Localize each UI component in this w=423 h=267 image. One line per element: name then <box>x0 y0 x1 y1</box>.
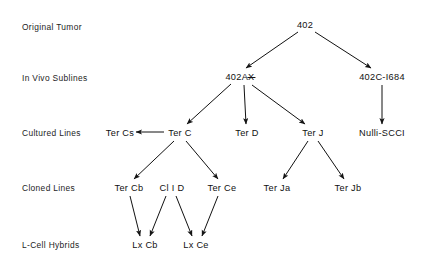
node-n402: 402 <box>297 20 313 30</box>
edge-n402-to-n402ax <box>246 32 298 68</box>
node-label: Ter J <box>302 128 323 138</box>
node-tercs: Ter Cs <box>106 128 134 138</box>
node-terj: Ter J <box>302 128 323 138</box>
node-terce: Ter Ce <box>208 183 237 193</box>
row-label-original-tumor: Original Tumor <box>22 22 82 32</box>
node-label: Lx Cb <box>132 240 158 250</box>
node-label: Ter Cb <box>115 183 144 193</box>
node-label: 402 <box>297 20 313 30</box>
node-n402ax: 402AX <box>225 72 254 82</box>
edge-terj-to-terja <box>283 141 308 179</box>
edge-clid-to-lxcb <box>150 196 166 236</box>
node-terc: Ter C <box>168 128 191 138</box>
node-label: Nulli-SCCI <box>359 128 405 138</box>
node-label: 402C-I684 <box>359 72 405 82</box>
node-terja: Ter Ja <box>264 183 291 193</box>
edge-clid-to-lxce <box>176 196 192 236</box>
node-lxce: Lx Ce <box>183 240 209 250</box>
node-tercb: Ter Cb <box>115 183 144 193</box>
edge-tercb-to-lxcb <box>130 196 140 236</box>
edge-terc-to-tercb <box>134 141 174 179</box>
edge-n402ax-to-terj <box>252 85 305 124</box>
node-overbar-segment: X <box>248 72 254 82</box>
node-label: Cl I D <box>160 183 185 193</box>
row-label-cultured-lines: Cultured Lines <box>22 128 81 138</box>
node-label: 402A <box>225 72 248 82</box>
node-label: Ter Jb <box>335 183 362 193</box>
node-terd: Ter D <box>235 128 258 138</box>
node-label: Lx Ce <box>183 240 209 250</box>
node-nulliscci: Nulli-SCCI <box>359 128 405 138</box>
node-label: Ter Cs <box>106 128 134 138</box>
row-label-l-cell-hybrids: L-Cell Hybrids <box>22 240 80 250</box>
node-label: Ter Ja <box>264 183 291 193</box>
edge-n402-to-n402c1684 <box>315 32 371 68</box>
node-terjb: Ter Jb <box>335 183 362 193</box>
edge-n402ax-to-terd <box>244 85 246 124</box>
node-label: Ter C <box>168 128 191 138</box>
node-clid: Cl I D <box>160 183 185 193</box>
edge-terj-to-terjb <box>318 141 344 179</box>
edge-n402ax-to-terc <box>187 84 231 124</box>
row-label-in-vivo-sublines: In Vivo Sublines <box>22 73 88 83</box>
lineage-diagram: Original TumorIn Vivo SublinesCultured L… <box>0 0 423 267</box>
node-lxcb: Lx Cb <box>132 240 158 250</box>
row-label-cloned-lines: Cloned Lines <box>22 183 75 193</box>
node-label: Ter D <box>235 128 258 138</box>
node-n402c1684: 402C-I684 <box>359 72 405 82</box>
edge-terc-to-terce <box>186 141 218 179</box>
edge-terce-to-lxce <box>202 196 218 236</box>
node-label: Ter Ce <box>208 183 237 193</box>
